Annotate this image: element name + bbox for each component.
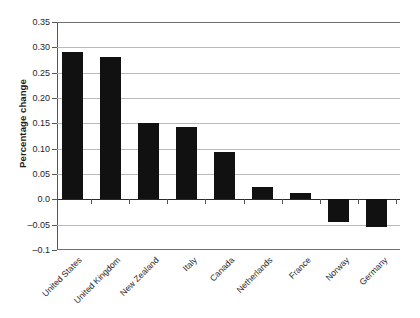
- x-tick-mark: [205, 199, 206, 204]
- plot-area: 0.350.300.250.200.150.100.050.0–0.05–0.1: [57, 22, 400, 250]
- bar-chart-figure: Percentage change 0.350.300.250.200.150.…: [0, 0, 420, 318]
- x-tick-label: Italy: [180, 255, 198, 273]
- y-tick-mark: [52, 123, 57, 124]
- y-tick-label: 0.0: [37, 194, 50, 204]
- bar: [252, 187, 273, 199]
- y-tick-mark: [52, 98, 57, 99]
- bar: [328, 199, 349, 221]
- y-axis-title: Percentage change: [17, 54, 28, 194]
- x-tick-label: Norway: [323, 255, 351, 283]
- x-tick-mark: [129, 199, 130, 204]
- y-tick-label: –0.1: [32, 245, 50, 255]
- gridline: [57, 225, 400, 226]
- y-tick-mark: [52, 225, 57, 226]
- y-tick-label: 0.10: [32, 144, 50, 154]
- bar: [176, 127, 197, 199]
- y-tick-label: 0.05: [32, 169, 50, 179]
- gridline: [57, 47, 400, 48]
- x-tick-mark: [57, 199, 58, 204]
- x-tick-mark: [358, 199, 359, 204]
- x-tick-label: France: [287, 255, 313, 281]
- y-tick-label: –0.05: [27, 220, 50, 230]
- x-tick-mark: [167, 199, 168, 204]
- y-tick-label: 0.20: [32, 93, 50, 103]
- bar: [366, 199, 387, 226]
- x-tick-label: New Zealand: [117, 255, 160, 298]
- y-axis-line: [57, 22, 58, 250]
- x-tick-mark: [91, 199, 92, 204]
- bar: [138, 123, 159, 200]
- y-tick-mark: [52, 47, 57, 48]
- y-tick-mark: [52, 174, 57, 175]
- y-tick-label: 0.25: [32, 68, 50, 78]
- x-tick-label: Netherlands: [235, 255, 275, 295]
- y-tick-mark: [52, 22, 57, 23]
- y-tick-label: 0.15: [32, 118, 50, 128]
- x-tick-label: Germany: [357, 255, 389, 287]
- x-tick-mark: [396, 199, 397, 204]
- bar: [214, 152, 235, 199]
- x-tick-mark: [282, 199, 283, 204]
- bar: [290, 193, 311, 200]
- y-tick-mark: [52, 250, 57, 251]
- y-tick-label: 0.30: [32, 42, 50, 52]
- bar: [62, 52, 83, 199]
- x-axis-frame-line: [57, 249, 400, 250]
- x-tick-mark: [244, 199, 245, 204]
- bar: [100, 57, 121, 199]
- y-tick-label: 0.35: [32, 17, 50, 27]
- x-tick-label: Canada: [208, 255, 236, 283]
- y-tick-mark: [52, 149, 57, 150]
- gridline: [57, 22, 400, 23]
- x-tick-mark: [320, 199, 321, 204]
- y-tick-mark: [52, 73, 57, 74]
